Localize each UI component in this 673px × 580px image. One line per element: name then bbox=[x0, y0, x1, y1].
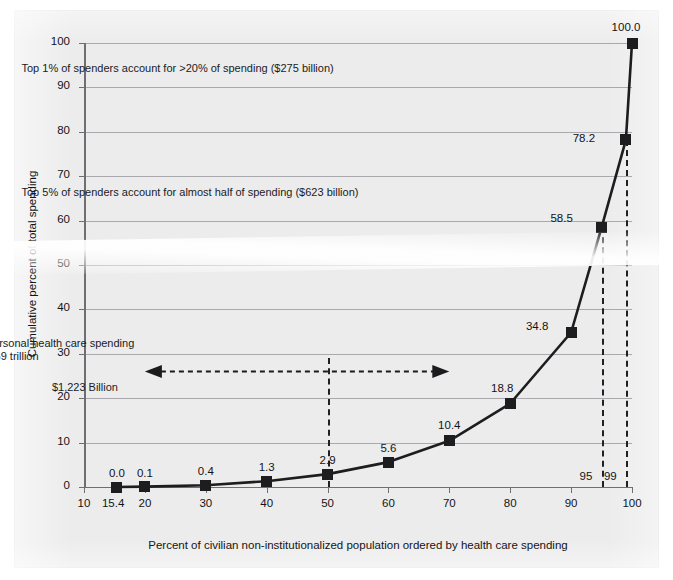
cumulative-spending-chart: 0102030405060708090100 10203040506070809… bbox=[0, 0, 673, 580]
annotation-2: Total personal health care spending bbox=[0, 337, 134, 349]
annotation-0: Top 1% of spenders account for >20% of s… bbox=[22, 62, 334, 74]
spending-span-arrow bbox=[0, 0, 673, 580]
annotation-1: Top 5% of spenders account for almost ha… bbox=[22, 186, 359, 198]
annotation-3: = $ 1.259 trillion bbox=[0, 350, 39, 362]
annotation-5: $1,223 Billion bbox=[52, 381, 118, 393]
